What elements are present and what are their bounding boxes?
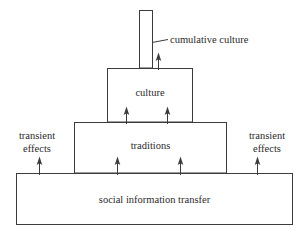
label-culture: culture	[107, 87, 193, 100]
label-transient-effects-right: transient effects	[236, 129, 298, 155]
arrow-transient-effects-left	[37, 157, 43, 176]
cumulative-culture-leader-line	[152, 40, 168, 43]
label-transient-effects-left-line1: transient	[6, 129, 68, 142]
label-transient-effects-right-line2: effects	[236, 142, 298, 155]
arrow-transient-effects-right	[255, 157, 261, 176]
label-transient-effects-right-line1: transient	[236, 129, 298, 142]
label-cumulative-culture: cumulative culture	[170, 34, 248, 47]
diagram-canvas: cumulative culture culture traditions so…	[0, 0, 304, 241]
label-transient-effects-left-line2: effects	[6, 142, 68, 155]
label-traditions: traditions	[74, 140, 227, 153]
arrow-into-cumulative-culture	[156, 53, 162, 71]
label-transient-effects-left: transient effects	[6, 129, 68, 155]
cumulative-culture-column	[140, 11, 153, 69]
label-social-information-transfer: social information transfer	[16, 194, 293, 207]
